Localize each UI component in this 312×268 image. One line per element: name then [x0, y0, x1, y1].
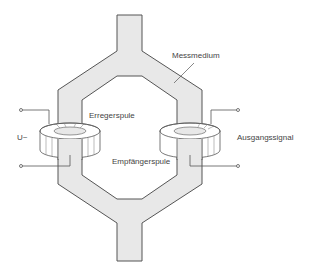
excitation-coil [40, 123, 100, 160]
medium-label: Messmedium [172, 51, 220, 60]
output-signal-label: Ausgangssignal [237, 133, 293, 142]
receiver-coil-label: Empfängerspule [112, 157, 170, 166]
excitation-coil-label: Erregerspule [89, 111, 135, 120]
receiver-coil [160, 123, 220, 160]
input-voltage-label: U~ [17, 133, 27, 142]
